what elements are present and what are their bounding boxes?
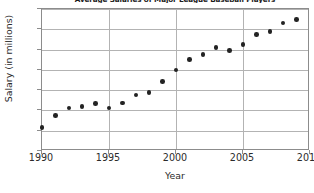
y-tick-mark [37,89,41,90]
data-point [134,93,139,98]
chart-screenshot: Average Salaries of Major League Basebal… [0,0,314,193]
gridline-vertical [176,9,177,149]
gridline-vertical [109,9,110,149]
gridline-horizontal [42,110,308,111]
x-axis-label: Year [41,170,309,181]
y-tick-mark [37,109,41,110]
x-tick-mark [175,150,176,154]
data-point [281,21,286,26]
plot-area [41,8,309,150]
data-point [268,29,273,34]
data-point [227,48,232,53]
x-tick-mark [108,150,109,154]
chart-title: Average Salaries of Major League Basebal… [41,0,309,3]
gridline-horizontal [42,9,308,10]
data-point [120,101,125,106]
data-point [174,68,179,73]
x-tick-mark [309,150,310,154]
data-point [241,42,246,47]
data-point [80,104,85,109]
data-point [160,79,165,84]
data-point [201,52,206,57]
y-tick-mark [37,49,41,50]
y-tick-mark [37,8,41,9]
y-tick-mark [37,28,41,29]
data-point [53,113,58,118]
data-point [254,32,259,37]
x-tick-mark [41,150,42,154]
y-tick-mark [37,130,41,131]
y-axis-label: Salary (in millions) [3,0,14,119]
gridline-horizontal [42,50,308,51]
data-point [187,57,192,62]
y-tick-mark [37,69,41,70]
data-point [147,90,152,95]
gridline-horizontal [42,90,308,91]
data-point [294,17,299,22]
data-point [93,101,98,106]
gridline-horizontal [42,131,308,132]
gridline-vertical [243,9,244,149]
x-tick-mark [242,150,243,154]
